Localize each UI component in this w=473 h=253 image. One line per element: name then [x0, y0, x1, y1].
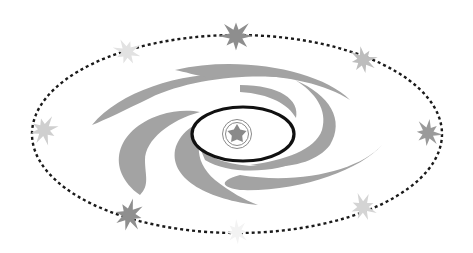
- star-bottom-icon: [227, 219, 247, 244]
- star-lower-left-icon: [116, 198, 143, 230]
- star-top-icon: [218, 23, 253, 51]
- galaxy-svg: [0, 0, 473, 253]
- galaxy-diagram: [0, 0, 473, 253]
- star-right-icon: [417, 119, 443, 146]
- star-upper-left-icon: [113, 40, 141, 64]
